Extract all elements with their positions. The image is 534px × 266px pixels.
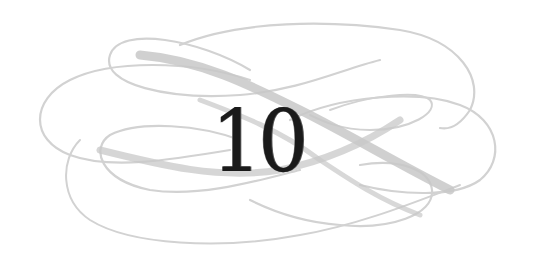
chapter-ornament: 10 bbox=[0, 0, 534, 266]
chapter-number: 10 bbox=[210, 96, 306, 186]
